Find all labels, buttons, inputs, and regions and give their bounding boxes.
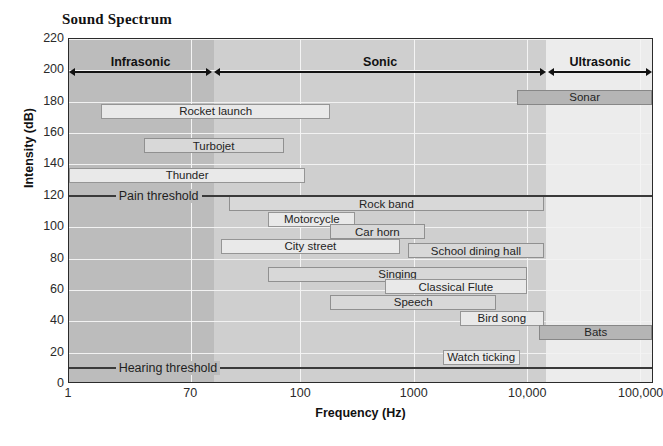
region-band-infrasonic (69, 39, 214, 382)
x-axis-tick-label: 1000 (400, 386, 428, 400)
y-axis-tick-label: 80 (30, 251, 64, 265)
data-bar: Rock band (229, 196, 544, 211)
chart-title: Sound Spectrum (62, 11, 172, 28)
data-bar: Sonar (517, 90, 652, 105)
data-bar: Bird song (460, 311, 545, 326)
region-arrowhead-left (214, 68, 220, 76)
data-bar: Classical Flute (385, 279, 527, 294)
y-axis-tick-label: 60 (30, 282, 64, 296)
plot-area: SonarRocket launchTurbojetThunderRock ba… (68, 38, 653, 383)
data-bar: Rocket launch (101, 104, 330, 119)
region-arrowhead-right (646, 68, 652, 76)
data-bar: Car horn (330, 224, 424, 239)
region-arrow-line (218, 71, 542, 73)
region-label: Infrasonic (111, 55, 171, 69)
data-bar: Watch ticking (443, 350, 520, 365)
x-axis: 170100100010,000100,000 (68, 386, 653, 406)
y-axis-tick-label: 160 (30, 125, 64, 139)
gridline-horizontal (69, 39, 652, 40)
gridline-horizontal (69, 164, 652, 165)
threshold-label: Pain threshold (116, 189, 202, 203)
region-arrowhead-left (69, 68, 75, 76)
y-axis-tick-label: 180 (30, 94, 64, 108)
y-axis-tick-label: 200 (30, 62, 64, 76)
threshold-label: Hearing threshold (116, 361, 221, 375)
y-axis-tick-label: 0 (30, 376, 64, 390)
y-axis: Intensity (dB) 2202001801601401201008060… (24, 38, 64, 383)
region-arrow-line (73, 71, 208, 73)
y-axis-tick-label: 100 (30, 219, 64, 233)
region-label: Ultrasonic (569, 55, 630, 69)
data-bar: School dining hall (408, 243, 544, 258)
data-bar: City street (221, 239, 401, 254)
x-axis-tick-label: 1 (65, 386, 72, 400)
x-axis-tick-label: 10,000 (508, 386, 546, 400)
gridline-horizontal (69, 353, 652, 354)
y-axis-tick-label: 20 (30, 345, 64, 359)
gridline-horizontal (69, 321, 652, 322)
y-axis-tick-label: 40 (30, 313, 64, 327)
y-axis-tick-label: 220 (30, 31, 64, 45)
region-arrowhead-left (548, 68, 554, 76)
region-arrow-line (552, 71, 648, 73)
x-axis-tick-label: 100 (290, 386, 311, 400)
gridline-horizontal (69, 133, 652, 134)
region-arrowhead-right (540, 68, 546, 76)
data-bar: Speech (330, 295, 496, 310)
y-axis-label: Intensity (dB) (22, 108, 36, 188)
data-bar: Bats (539, 325, 652, 340)
region-arrowhead-right (206, 68, 212, 76)
y-axis-tick-label: 140 (30, 156, 64, 170)
data-bar: Turbojet (144, 138, 284, 153)
region-label: Sonic (363, 55, 397, 69)
gridline-vertical (191, 39, 192, 382)
y-axis-tick-label: 120 (30, 188, 64, 202)
gridline-horizontal (69, 259, 652, 260)
x-axis-tick-label: 70 (183, 386, 197, 400)
gridline-horizontal (69, 290, 652, 291)
x-axis-label: Frequency (Hz) (68, 406, 653, 420)
data-bar: Thunder (69, 168, 305, 183)
x-axis-tick-label: 100,000 (618, 386, 663, 400)
